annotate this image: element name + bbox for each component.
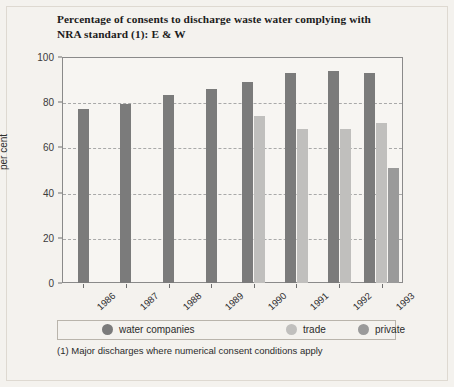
y-tick-label: 0 [48, 278, 54, 289]
chart-title-line-1: Percentage of consents to discharge wast… [57, 13, 371, 25]
y-tick-label: 80 [43, 97, 54, 108]
x-tick-mark [169, 284, 170, 288]
x-tick-label-1991: 1991 [308, 290, 331, 312]
legend-swatch-trade-icon [286, 324, 297, 335]
y-axis: per cent 020406080100 [0, 0, 62, 300]
legend-item-trade: trade [286, 324, 326, 335]
bar-private-1993 [388, 168, 399, 283]
legend-swatch-water-companies-icon [102, 324, 113, 335]
bar-water-companies-1993 [364, 73, 375, 283]
x-tick-mark [339, 284, 340, 288]
bar-trade-1992 [340, 129, 351, 283]
legend-label: water companies [119, 324, 195, 335]
x-tick-mark [382, 284, 383, 288]
bar-water-companies-1992 [328, 71, 339, 283]
x-tick-mark [211, 284, 212, 288]
chart-figure: Percentage of consents to discharge wast… [0, 0, 454, 387]
bar-water-companies-1990 [242, 82, 253, 283]
y-tick-label: 100 [37, 52, 54, 63]
x-tick-label-1986: 1986 [95, 290, 118, 312]
x-tick-label-1989: 1989 [223, 290, 246, 312]
chart-footnote: (1) Major discharges where numerical con… [57, 345, 323, 356]
bar-trade-1991 [297, 129, 308, 283]
x-tick-mark [126, 284, 127, 288]
bar-water-companies-1988 [163, 95, 174, 283]
bar-water-companies-1991 [285, 73, 296, 283]
bar-trade-1993 [376, 123, 387, 283]
y-tick-label: 40 [43, 187, 54, 198]
chart-title-line-2: NRA standard (1): E & W [57, 28, 186, 40]
y-axis-label: per cent [0, 134, 9, 170]
bar-water-companies-1989 [206, 89, 217, 283]
x-tick-label-1993: 1993 [393, 290, 416, 312]
bar-water-companies-1987 [120, 104, 131, 283]
y-tick-label: 60 [43, 142, 54, 153]
x-tick-label-1988: 1988 [180, 290, 203, 312]
chart-legend: water companiestradeprivate [57, 320, 396, 340]
y-tick-label: 20 [43, 232, 54, 243]
x-tick-label-1990: 1990 [265, 290, 288, 312]
legend-item-private: private [358, 324, 405, 335]
x-axis: 19861987198819891990199119921993 [62, 284, 403, 324]
bar-trade-1990 [254, 116, 265, 283]
bar-water-companies-1986 [78, 109, 89, 283]
x-tick-mark [83, 284, 84, 288]
legend-swatch-private-icon [358, 324, 369, 335]
x-tick-label-1987: 1987 [137, 290, 160, 312]
x-tick-mark [296, 284, 297, 288]
legend-label: trade [303, 324, 326, 335]
legend-label: private [375, 324, 405, 335]
legend-item-water-companies: water companies [102, 324, 195, 335]
bars-layer [62, 57, 403, 283]
x-tick-mark [254, 284, 255, 288]
chart-title: Percentage of consents to discharge wast… [57, 12, 427, 41]
x-tick-label-1992: 1992 [350, 290, 373, 312]
